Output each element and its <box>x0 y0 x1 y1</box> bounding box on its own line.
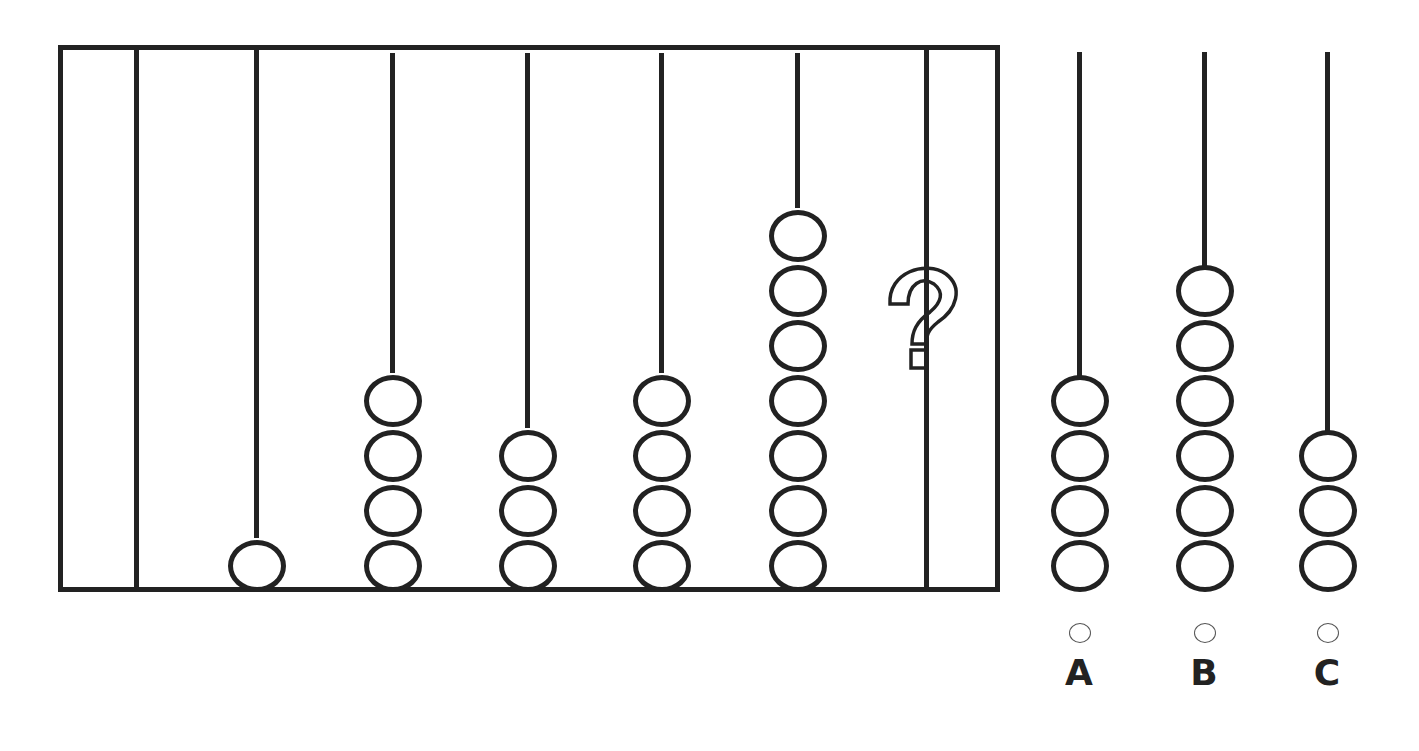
abacus-rod-2 <box>254 48 259 538</box>
option-c-bead <box>1299 485 1357 537</box>
option-b-label[interactable]: B <box>1174 652 1234 693</box>
option-c-radio[interactable] <box>1317 623 1339 643</box>
bead <box>769 430 827 482</box>
bead <box>769 265 827 317</box>
abacus-rod-4 <box>525 53 530 428</box>
option-b-bead <box>1176 320 1234 372</box>
bead <box>769 210 827 262</box>
bead <box>769 375 827 427</box>
bead <box>364 375 422 427</box>
option-a-radio[interactable] <box>1069 623 1091 643</box>
option-c-label[interactable]: C <box>1297 652 1357 693</box>
bead <box>633 430 691 482</box>
bead <box>769 320 827 372</box>
abacus-rod-5 <box>659 53 664 373</box>
option-b-bead <box>1176 485 1234 537</box>
bead <box>769 540 827 592</box>
option-b-bead <box>1176 265 1234 317</box>
bead <box>499 485 557 537</box>
option-b-bead <box>1176 430 1234 482</box>
option-b-bead <box>1176 375 1234 427</box>
option-b-radio[interactable] <box>1194 623 1216 643</box>
bead <box>633 485 691 537</box>
option-c-bead <box>1299 540 1357 592</box>
abacus-puzzle: ABC <box>0 0 1419 751</box>
bead <box>499 540 557 592</box>
bead <box>228 540 286 592</box>
bead <box>364 430 422 482</box>
option-a-rod <box>1077 52 1082 377</box>
option-a-bead <box>1051 485 1109 537</box>
option-a-label[interactable]: A <box>1049 652 1109 693</box>
option-c-rod <box>1325 52 1330 432</box>
option-a-bead <box>1051 375 1109 427</box>
abacus-rod-3 <box>390 53 395 373</box>
bead <box>633 540 691 592</box>
bead <box>633 375 691 427</box>
option-b-rod <box>1202 52 1207 267</box>
bead <box>499 430 557 482</box>
option-a-bead <box>1051 430 1109 482</box>
option-a-bead <box>1051 540 1109 592</box>
option-b-bead <box>1176 540 1234 592</box>
bead <box>364 540 422 592</box>
abacus-rod-1 <box>134 48 139 588</box>
option-c-bead <box>1299 430 1357 482</box>
bead <box>769 485 827 537</box>
abacus-rod-6 <box>795 53 800 208</box>
bead <box>364 485 422 537</box>
abacus-rod-7 <box>924 48 929 588</box>
